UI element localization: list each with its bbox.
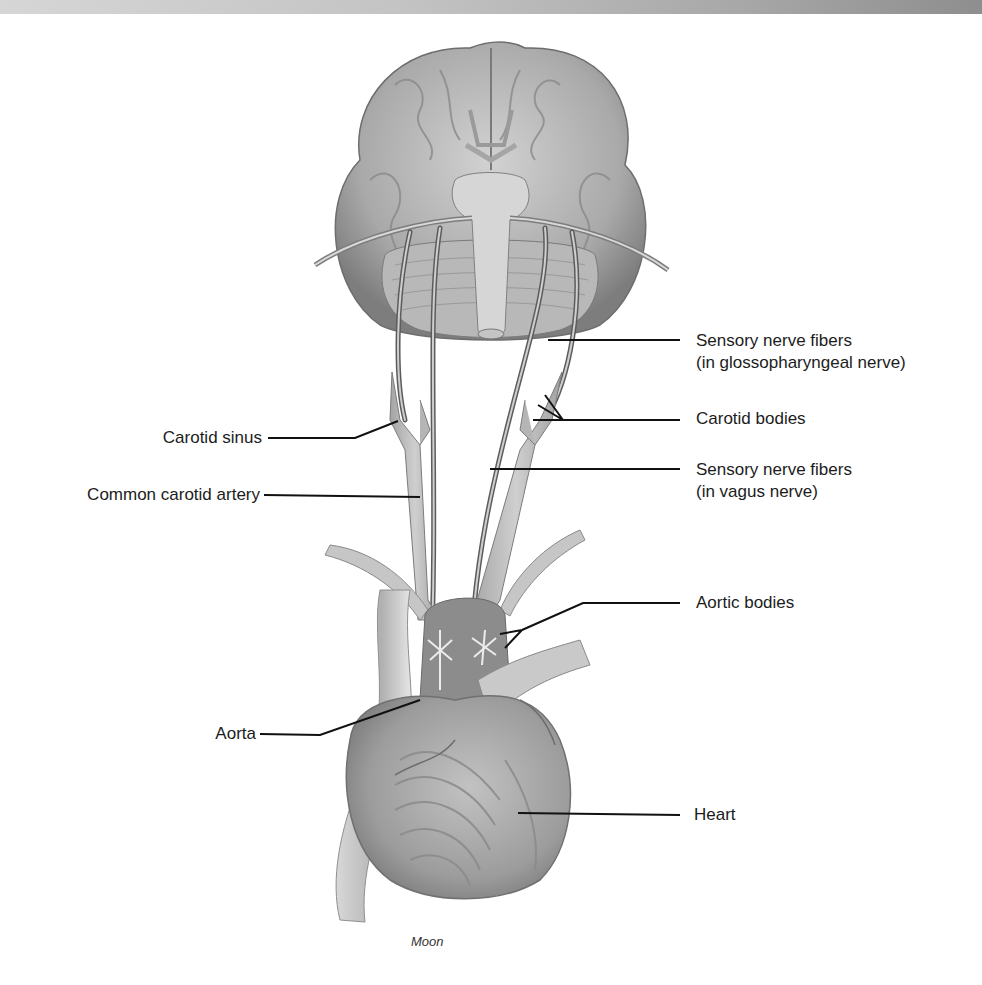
label-heart: Heart xyxy=(694,804,736,826)
brain xyxy=(315,42,668,340)
label-sensory-vagus-line2: (in vagus nerve) xyxy=(696,481,852,503)
leader-carotid-sinus xyxy=(268,421,398,438)
label-common-carotid-artery: Common carotid artery xyxy=(48,484,260,506)
label-sensory-glosso-line2: (in glossopharyngeal nerve) xyxy=(696,352,906,374)
label-carotid-sinus: Carotid sinus xyxy=(136,427,262,449)
label-aortic-bodies: Aortic bodies xyxy=(696,592,794,614)
label-sensory-fibers-vagus: Sensory nerve fibers (in vagus nerve) xyxy=(696,459,852,503)
leader-aortic-bodies xyxy=(500,603,680,648)
label-sensory-vagus-line1: Sensory nerve fibers xyxy=(696,459,852,481)
artist-signature: Moon xyxy=(411,934,444,949)
label-sensory-glosso-line1: Sensory nerve fibers xyxy=(696,330,906,352)
label-aorta: Aorta xyxy=(196,723,256,745)
label-carotid-bodies: Carotid bodies xyxy=(696,408,806,430)
label-sensory-fibers-glossopharyngeal: Sensory nerve fibers (in glossopharyngea… xyxy=(696,330,906,374)
leader-common-carotid xyxy=(264,495,420,497)
heart xyxy=(346,696,570,899)
